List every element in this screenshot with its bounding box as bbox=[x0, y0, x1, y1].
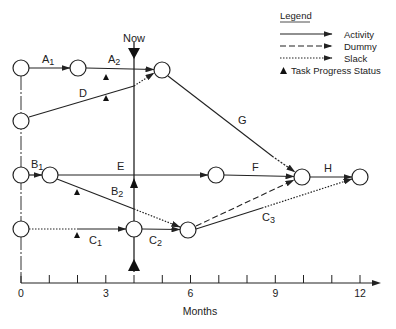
progress-c1-icon bbox=[74, 232, 80, 238]
time-axis: 0 3 6 9 12 Months bbox=[18, 274, 381, 317]
legend-title: Legend bbox=[280, 10, 312, 21]
network-diagram: Now A1 A2 D G B1 E F H B2 C1 C2 C3 bbox=[0, 0, 396, 329]
legend-activity-label: Activity bbox=[344, 29, 374, 40]
progress-d-icon bbox=[103, 95, 109, 101]
tick-3: 3 bbox=[103, 287, 109, 299]
node-e-end bbox=[208, 167, 224, 183]
label-a1: A1 bbox=[42, 53, 54, 67]
label-h: H bbox=[324, 162, 332, 174]
tick-12: 12 bbox=[354, 287, 366, 299]
label-e: E bbox=[117, 160, 124, 172]
activity-f bbox=[224, 175, 294, 177]
node-start-a bbox=[13, 60, 29, 76]
tick-6: 6 bbox=[188, 287, 194, 299]
label-b1: B1 bbox=[31, 158, 43, 172]
now-label: Now bbox=[123, 32, 145, 44]
node-a1-end bbox=[70, 60, 86, 76]
node-start-c bbox=[13, 221, 29, 237]
axis-label: Months bbox=[183, 305, 217, 317]
label-c3: C3 bbox=[262, 211, 275, 225]
label-g: G bbox=[238, 114, 247, 126]
now-up-arrow-icon bbox=[130, 178, 138, 188]
progress-b2-icon bbox=[74, 189, 80, 195]
node-finish bbox=[352, 169, 368, 185]
node-c1-end bbox=[126, 221, 142, 237]
dummy-c-to-h bbox=[196, 180, 294, 226]
node-start-d bbox=[13, 113, 29, 129]
legend-dummy-label: Dummy bbox=[344, 41, 377, 52]
label-a2: A2 bbox=[108, 53, 120, 67]
node-b1-end bbox=[42, 167, 58, 183]
now-bottom-triangle-icon bbox=[128, 259, 140, 271]
axis-arrow-icon bbox=[372, 280, 381, 286]
label-b2: B2 bbox=[111, 185, 123, 199]
node-f-g-end bbox=[294, 169, 310, 185]
slack-g bbox=[272, 156, 295, 172]
legend-slack-label: Slack bbox=[344, 53, 367, 64]
node-c2-b2-end bbox=[180, 222, 196, 238]
tick-9: 9 bbox=[272, 287, 278, 299]
legend: Legend Activity Dummy Slack Task Progres… bbox=[280, 10, 381, 76]
activity-a2 bbox=[86, 68, 154, 70]
label-d: D bbox=[79, 87, 87, 99]
node-a2-d-end bbox=[154, 62, 170, 78]
activity-c2 bbox=[142, 229, 180, 230]
node-start-b bbox=[13, 167, 29, 183]
tick-0: 0 bbox=[18, 287, 24, 299]
label-c1: C1 bbox=[89, 234, 102, 248]
legend-progress-label: Task Progress Status bbox=[291, 65, 381, 76]
activity-g bbox=[168, 76, 272, 156]
activity-c3 bbox=[196, 208, 262, 229]
progress-a2-icon bbox=[103, 74, 109, 80]
label-c2: C2 bbox=[149, 234, 162, 248]
slack-d bbox=[134, 73, 154, 86]
label-f: F bbox=[252, 161, 259, 173]
legend-triangle-icon bbox=[280, 67, 287, 74]
now-down-triangle-icon bbox=[128, 48, 140, 59]
